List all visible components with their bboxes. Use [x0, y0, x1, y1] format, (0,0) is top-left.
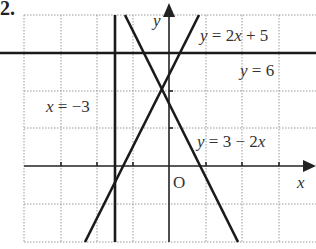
- y-axis-label: y: [151, 11, 161, 30]
- origin-label: O: [173, 173, 185, 192]
- x-axis-arrow-icon: [303, 160, 316, 172]
- label-y-equals-2x-plus-5: y = 2x + 5: [198, 26, 268, 45]
- coordinate-graph: y x O y = 2x + 5 y = 6 x = −3 y = 3 − 2x: [0, 0, 316, 249]
- x-axis-label: x: [296, 173, 305, 192]
- label-y-equals-3-minus-2x: y = 3 − 2x: [195, 132, 266, 151]
- y-axis-arrow-icon: [163, 3, 175, 17]
- axes: [24, 3, 316, 242]
- label-x-equals-minus-3: x = −3: [45, 97, 90, 116]
- label-y-equals-6: y = 6: [238, 61, 274, 80]
